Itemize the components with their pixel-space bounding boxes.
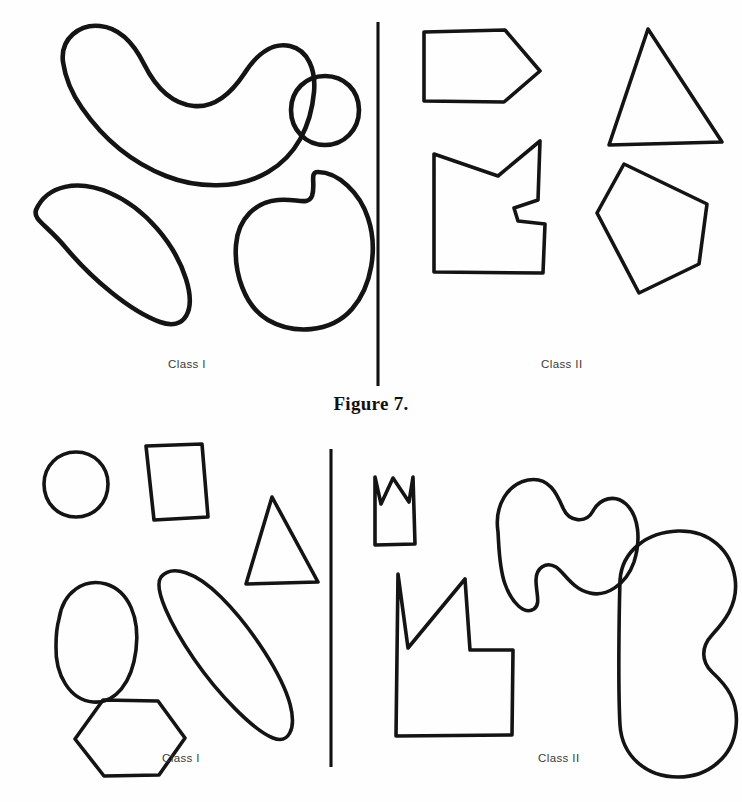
shape-arrow-pentagon — [424, 30, 540, 102]
shape-large-bean-blob — [619, 531, 737, 777]
shape-circle — [44, 452, 108, 517]
panel-bottom-drawing — [0, 432, 742, 802]
figure-panel-top: Class I Class II — [0, 0, 742, 392]
figure-caption: Figure 7. — [0, 393, 742, 415]
shape-tilted-pentagon — [597, 164, 707, 293]
shape-triangle — [609, 29, 722, 145]
shape-crescent-bean-blob — [63, 26, 315, 185]
shape-notched-concave-polygon — [434, 141, 545, 273]
shape-hexagon — [75, 700, 185, 776]
figure-root: Class I Class II Figure 7. Class I Class… — [0, 0, 742, 802]
panel-top-drawing — [0, 0, 742, 392]
figure-panel-bottom: Class I Class II — [0, 432, 742, 802]
panel-bottom-class-i-label: Class I — [162, 752, 200, 764]
shape-large-crown-notch-polygon — [396, 574, 513, 736]
shape-wavy-concave-blob — [497, 479, 638, 610]
shape-upright-ellipse — [56, 583, 137, 703]
shape-small-ellipse — [291, 76, 359, 145]
shape-long-tilted-ellipse — [159, 571, 292, 740]
shape-square — [146, 444, 208, 520]
shape-triangle — [246, 497, 318, 584]
shape-small-crown-notch-shape — [375, 477, 415, 545]
panel-top-class-i-label: Class I — [168, 358, 206, 370]
shape-kidney-bean-blob — [236, 172, 373, 329]
panel-bottom-class-ii-label: Class II — [538, 752, 580, 764]
panel-top-class-ii-label: Class II — [541, 358, 583, 370]
shape-large-tilted-ellipse — [36, 186, 190, 325]
